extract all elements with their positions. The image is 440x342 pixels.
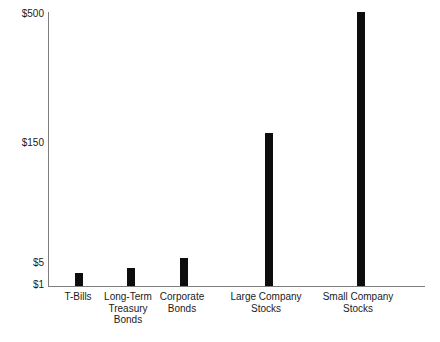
x-label-large-company-stocks: Large Company Stocks xyxy=(223,291,309,314)
y-axis-line xyxy=(48,12,49,286)
bar-corporate-bonds xyxy=(180,258,188,286)
bar-long-term-treasury-bonds xyxy=(127,268,135,286)
bar-small-company-stocks xyxy=(357,12,365,286)
y-tick-label: $1 xyxy=(2,280,44,290)
x-label-small-company-stocks: Small Company Stocks xyxy=(315,291,401,314)
bar-large-company-stocks xyxy=(265,133,273,286)
y-tick-label: $5 xyxy=(2,258,44,268)
y-axis-tick-labels: $500 $150 $5 $1 xyxy=(0,0,44,342)
x-label-t-bills: T-Bills xyxy=(55,291,101,303)
bar-t-bills xyxy=(75,273,83,286)
y-tick-label: $150 xyxy=(2,138,44,148)
x-label-corporate-bonds: Corporate Bonds xyxy=(155,291,209,314)
y-tick-label: $500 xyxy=(2,9,44,19)
x-axis-line xyxy=(48,286,425,287)
x-label-long-term-treasury-bonds: Long-Term Treasury Bonds xyxy=(101,291,155,326)
investment-growth-bar-chart: $500 $150 $5 $1 T-Bills Long-Term Treasu… xyxy=(0,0,440,342)
